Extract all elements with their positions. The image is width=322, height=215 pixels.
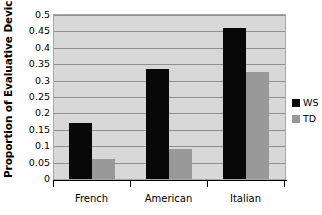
x-axis-tick-labels: FrenchAmericanItalian [53,192,286,206]
y-axis-tick-label: 0.05 [16,158,50,168]
y-axis-tick-label: 0.15 [16,125,50,135]
y-axis-tick-label: 0.3 [16,76,50,86]
y-axis-tick-labels: 0.50.450.40.350.30.250.20.150.10.050 [16,14,50,180]
legend-label: WS [303,98,318,108]
x-axis-tick-label: French [53,192,130,205]
y-axis-tick-label: 0 [16,174,50,184]
chart-legend: WSTD [292,96,322,128]
x-axis-line [53,180,287,181]
legend-item: WS [292,96,322,109]
x-axis-divider [53,181,54,187]
bar-group [131,15,208,179]
bar [92,159,115,179]
legend-swatch-icon [292,99,300,107]
bar-chart: Proportion of Evaluative Devices 0.50.45… [0,0,322,215]
y-axis-tick-label: 0.5 [16,10,50,20]
plot-area [53,14,286,180]
bar [146,69,169,179]
bar-group [54,15,131,179]
x-axis-tick-label: American [130,192,207,205]
bar [246,72,269,179]
y-axis-tick-label: 0.4 [16,43,50,53]
x-axis-divider [207,181,208,187]
x-axis-tick-label: Italian [207,192,284,205]
bar [223,28,246,179]
y-axis-tick-label: 0.2 [16,108,50,118]
y-axis-title: Proportion of Evaluative Devices [1,0,15,178]
legend-label: TD [303,114,316,124]
y-axis-tick-label: 0.25 [16,92,50,102]
x-axis-divider [130,181,131,187]
y-axis-tick-label: 0.1 [16,141,50,151]
bar [69,123,92,179]
y-axis-tick-label: 0.45 [16,26,50,36]
legend-swatch-icon [292,115,300,123]
x-axis-divider [284,181,285,187]
bar-group [208,15,285,179]
y-axis-tick-label: 0.35 [16,59,50,69]
bar [169,149,192,179]
legend-item: TD [292,112,322,125]
